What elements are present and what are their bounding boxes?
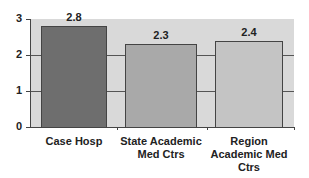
x-tick	[207, 127, 208, 130]
x-axis	[30, 127, 294, 128]
category-label-line: Region	[204, 135, 294, 148]
x-tick	[294, 127, 295, 130]
x-category-label: RegionAcademic MedCtrs	[204, 135, 294, 174]
bar-value-label: 2.4	[219, 26, 279, 38]
bar	[41, 26, 107, 128]
x-category-label: Case Hosp	[29, 135, 119, 148]
y-tick-label: 1	[8, 85, 22, 96]
y-tick	[26, 91, 31, 92]
category-label-line: Academic Med	[204, 148, 294, 161]
bar-value-label: 2.3	[131, 29, 191, 41]
bar-value-label: 2.8	[44, 11, 104, 23]
category-label-line: Case Hosp	[29, 135, 119, 148]
y-tick-label: 0	[8, 121, 22, 132]
x-tick	[117, 127, 118, 130]
bar	[125, 44, 197, 128]
y-tick	[26, 55, 31, 56]
y-tick	[26, 127, 31, 128]
bar	[215, 41, 283, 128]
x-category-label: State AcademicMed Ctrs	[116, 135, 206, 161]
y-axis	[30, 19, 31, 128]
y-tick-label: 2	[8, 49, 22, 60]
category-label-line: Ctrs	[204, 161, 294, 174]
y-tick-label: 3	[8, 13, 22, 24]
category-label-line: Med Ctrs	[116, 148, 206, 161]
category-label-line: State Academic	[116, 135, 206, 148]
y-tick	[26, 19, 31, 20]
